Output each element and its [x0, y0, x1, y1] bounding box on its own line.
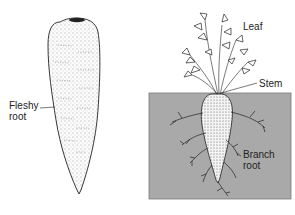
diagram-canvas: [0, 0, 295, 215]
branch-root-label: Branch root: [243, 149, 275, 171]
fleshy-root-label: Fleshy root: [9, 100, 38, 122]
fleshy-root-leader: [40, 107, 55, 108]
fleshy-root-label-line1: Fleshy: [9, 100, 38, 111]
fleshy-root-carrot: [40, 18, 100, 194]
stem-label: Stem: [259, 78, 282, 89]
fleshy-root-label-line2: root: [9, 111, 26, 122]
stem-leader: [221, 83, 257, 93]
crown-mark: [69, 18, 85, 22]
leaf-label: Leaf: [243, 21, 262, 32]
branch-root-label-line2: root: [243, 160, 260, 171]
branch-root-label-line1: Branch: [243, 149, 275, 160]
